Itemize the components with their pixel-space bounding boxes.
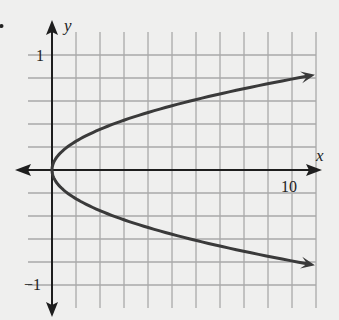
x-tick-label-10: 10: [281, 178, 297, 195]
y-axis-label: y: [62, 16, 72, 35]
y-tick-label-1: 1: [36, 47, 44, 64]
parabola-chart: y x 10 1 −1: [0, 0, 339, 320]
x-axis-label: x: [315, 146, 324, 165]
labels: y x 10 1 −1: [24, 16, 324, 293]
axes: [15, 20, 322, 317]
bullet-dot: [0, 24, 4, 28]
y-tick-label-neg1: −1: [24, 276, 41, 293]
